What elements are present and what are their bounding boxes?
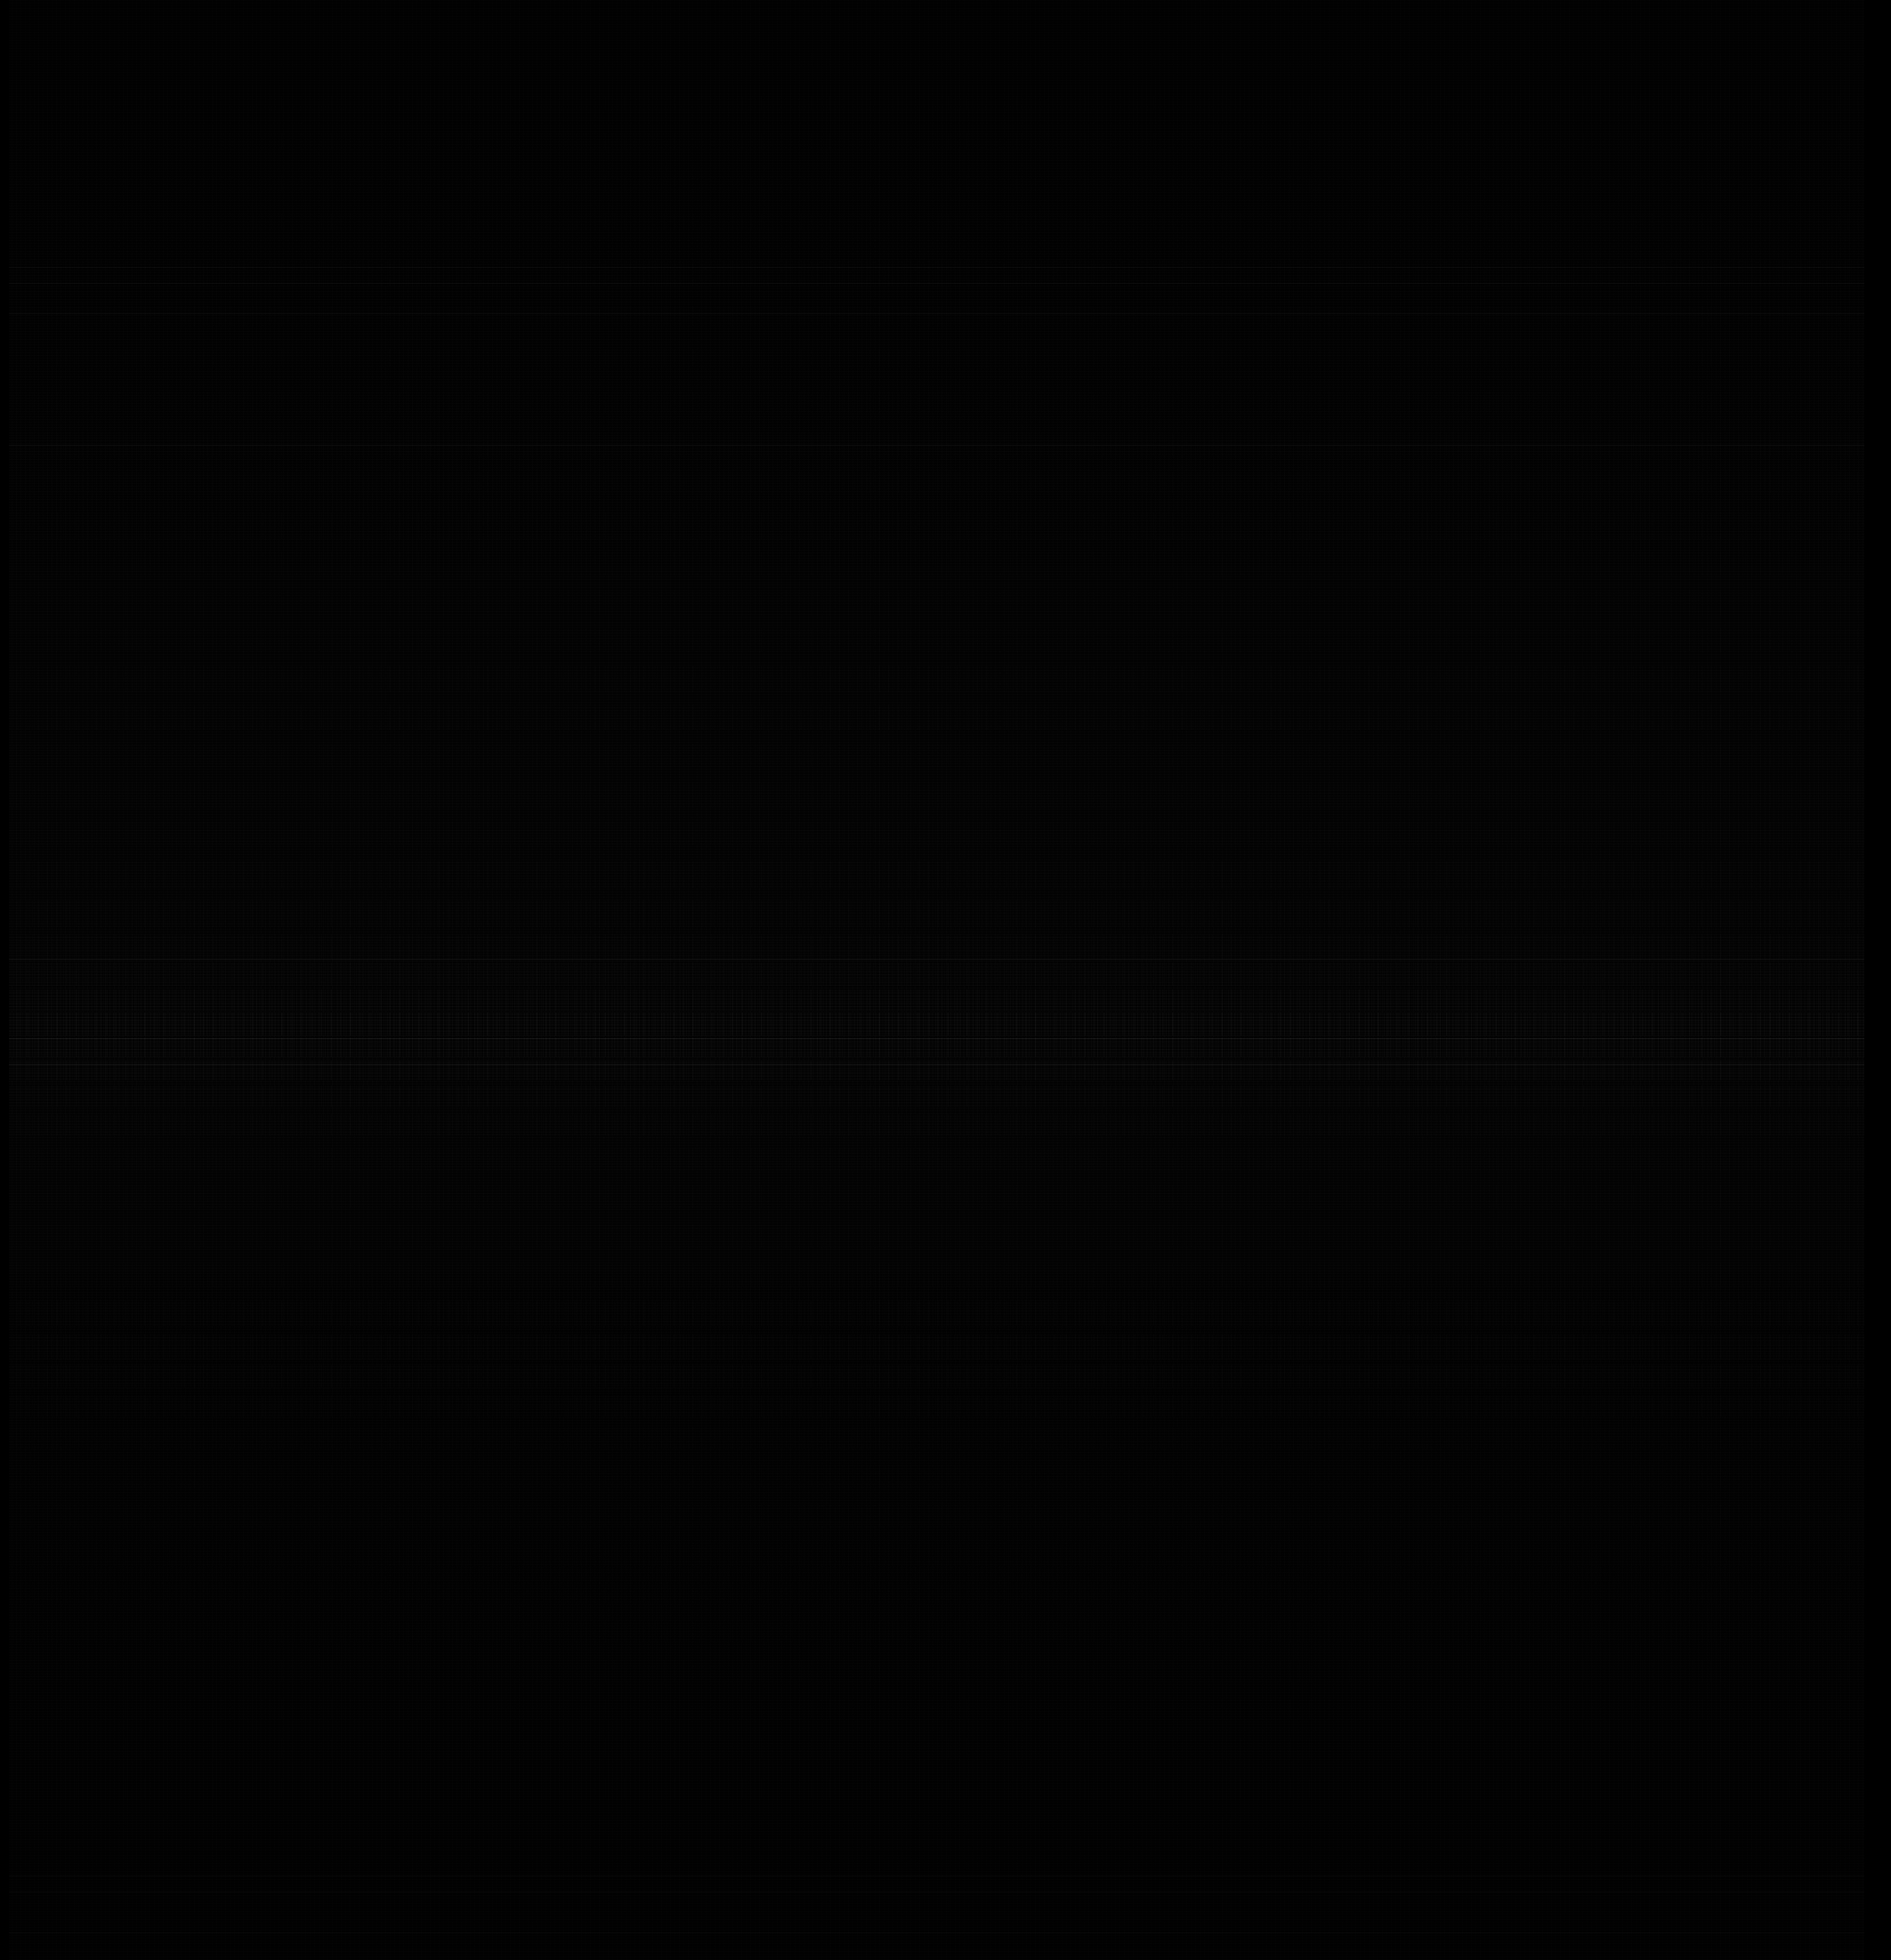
text-row-band [7, 260, 1864, 286]
text-row-band [7, 1185, 1864, 1208]
text-row-band [7, 1395, 1864, 1416]
glyph-texture [7, 1464, 1864, 1488]
glyph-texture [7, 1738, 1864, 1758]
glyph-texture [7, 472, 1864, 493]
glyph-texture [7, 214, 1864, 230]
text-row-band [7, 1738, 1864, 1758]
glyph-texture [7, 306, 1864, 326]
text-row-band [7, 391, 1864, 413]
text-row-band [7, 1335, 1864, 1359]
text-row-band [7, 1621, 1864, 1642]
glyph-texture [7, 1114, 1864, 1135]
text-row-band [7, 1263, 1864, 1287]
glyph-texture [7, 822, 1864, 845]
text-row-band [7, 665, 1864, 692]
capture-description: Near-black screenshot; no legible text, … [0, 0, 1, 1]
glyph-texture [7, 1185, 1864, 1208]
glyph-texture [7, 591, 1864, 616]
glyph-texture [7, 705, 1864, 730]
text-row-band [7, 1114, 1864, 1135]
text-row-band [7, 783, 1864, 808]
text-row-band [7, 900, 1864, 927]
glyph-texture [7, 1582, 1864, 1603]
glyph-texture [7, 1660, 1864, 1682]
glyph-texture [7, 1504, 1864, 1527]
text-row-band [7, 214, 1864, 230]
glyph-texture [7, 1543, 1864, 1566]
horizontal-rule [7, 1875, 1864, 1876]
horizontal-rule [7, 1064, 1864, 1065]
sensor-noise-overlay [7, 0, 1864, 1960]
glyph-texture [7, 96, 1864, 110]
glyph-texture [7, 1929, 1864, 1945]
text-row-band [7, 349, 1864, 367]
text-row-band [7, 705, 1864, 730]
text-row-band [7, 1012, 1864, 1036]
text-row-band [7, 1817, 1864, 1835]
text-row-band [7, 1224, 1864, 1247]
text-row-band [7, 96, 1864, 110]
text-row-band [7, 1148, 1864, 1171]
text-row-band [7, 512, 1864, 539]
text-row-band [7, 552, 1864, 575]
glyph-texture [7, 1263, 1864, 1287]
text-row-band [7, 1699, 1864, 1719]
horizontal-rule [7, 267, 1864, 268]
glyph-texture [7, 934, 1864, 959]
glyph-texture [7, 512, 1864, 539]
text-row-band [7, 861, 1864, 888]
glyph-texture [7, 900, 1864, 927]
text-row-band [7, 174, 1864, 192]
text-row-band [7, 1660, 1864, 1682]
text-row-band [7, 1856, 1864, 1874]
glyph-texture [7, 1817, 1864, 1835]
text-row-band [7, 1929, 1864, 1945]
text-row-band [7, 1543, 1864, 1566]
content-area [7, 0, 1864, 1960]
glyph-texture [7, 1856, 1864, 1874]
text-row-band [7, 306, 1864, 326]
glyph-texture [7, 174, 1864, 192]
glyph-texture [7, 260, 1864, 286]
glyph-texture [7, 1012, 1864, 1036]
text-row-band [7, 963, 1864, 986]
glyph-texture [7, 963, 1864, 986]
text-row-band [7, 432, 1864, 456]
glyph-texture [7, 1224, 1864, 1247]
glyph-texture [7, 1699, 1864, 1719]
horizontal-rule [7, 959, 1864, 960]
glyph-texture [7, 1778, 1864, 1797]
glyph-texture [7, 1395, 1864, 1416]
text-row-band [7, 989, 1864, 1011]
horizontal-rule [7, 313, 1864, 314]
glyph-texture [7, 1895, 1864, 1913]
text-row-band [7, 53, 1864, 66]
glyph-texture [7, 552, 1864, 575]
text-row-band [7, 1504, 1864, 1527]
text-row-band [7, 934, 1864, 959]
horizontal-rule [7, 1932, 1864, 1933]
text-row-band [7, 822, 1864, 845]
glyph-texture [7, 432, 1864, 456]
text-row-band [7, 1895, 1864, 1913]
glyph-texture [7, 783, 1864, 808]
glyph-texture [7, 1621, 1864, 1642]
text-row-band [7, 744, 1864, 767]
glyph-texture [7, 1148, 1864, 1171]
glyph-texture [7, 1061, 1864, 1080]
text-row-band [7, 1061, 1864, 1080]
horizontal-rule [7, 445, 1864, 446]
text-row-band [7, 1464, 1864, 1488]
glyph-texture [7, 744, 1864, 767]
horizontal-rule [7, 1891, 1864, 1892]
glyph-texture [7, 628, 1864, 651]
text-row-band [7, 133, 1864, 149]
glyph-texture [7, 1037, 1864, 1057]
text-row-band [7, 1778, 1864, 1797]
horizontal-rule [7, 1038, 1864, 1039]
text-row-band [7, 628, 1864, 651]
glyph-texture [7, 861, 1864, 888]
glyph-texture [7, 989, 1864, 1011]
horizontal-rule [7, 283, 1864, 284]
glyph-texture [7, 1301, 1864, 1326]
